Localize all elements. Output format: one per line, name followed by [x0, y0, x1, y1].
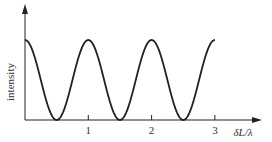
- chart: 123 intensity δL/λ: [0, 0, 272, 142]
- x-axis-arrow-icon: [252, 117, 262, 123]
- intensity-curve: [25, 40, 215, 120]
- x-tick-label: 2: [149, 124, 155, 136]
- y-axis-arrow-icon: [22, 4, 28, 14]
- x-ticks: 123: [86, 115, 219, 136]
- x-tick-label: 1: [86, 124, 92, 136]
- y-axis-label: intensity: [4, 63, 16, 101]
- x-tick-label: 3: [212, 124, 218, 136]
- x-axis-label: δL/λ: [233, 126, 252, 138]
